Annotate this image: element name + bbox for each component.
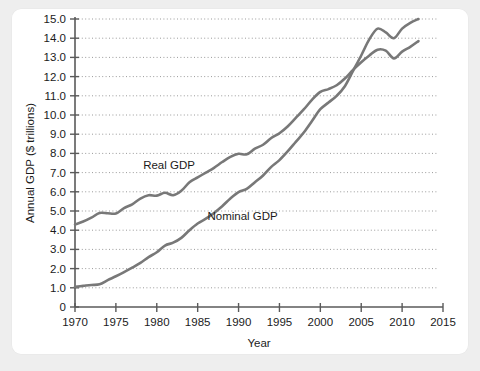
series-line-real-gdp: [75, 41, 418, 224]
y-tick-label: 4.0: [50, 224, 66, 236]
screenshot-root: 01.02.03.04.05.06.07.08.09.010.011.012.0…: [0, 0, 480, 371]
x-tick-label: 1990: [226, 316, 252, 328]
y-tick-label: 9.0: [50, 128, 66, 140]
y-tick-label: 14.0: [44, 32, 66, 44]
x-tick-label: 1970: [62, 316, 88, 328]
series-annotation: Nominal GDP: [207, 210, 278, 222]
x-axis: 1970197519801985199019952000200520102015: [62, 303, 456, 328]
y-tick-label: 6.0: [50, 186, 66, 198]
gdp-line-chart: 01.02.03.04.05.06.07.08.09.010.011.012.0…: [12, 9, 468, 354]
x-tick-label: 2000: [308, 316, 334, 328]
y-axis-tick-labels: 01.02.03.04.05.06.07.08.09.010.011.012.0…: [44, 13, 66, 313]
y-tick-label: 8.0: [50, 147, 66, 159]
x-tick-label: 1995: [267, 316, 293, 328]
y-tick-label: 15.0: [44, 13, 66, 25]
x-tick-label: 2005: [348, 316, 374, 328]
y-tick-label: 2.0: [50, 263, 66, 275]
y-tick-label: 5.0: [50, 205, 66, 217]
x-axis-title: Year: [247, 337, 270, 349]
series-annotations: Real GDPNominal GDP: [143, 159, 278, 222]
y-tick-label: 11.0: [44, 90, 66, 102]
y-tick-label: 1.0: [50, 282, 66, 294]
x-axis-tick-labels: 1970197519801985199019952000200520102015: [62, 316, 456, 328]
y-tick-label: 7.0: [50, 167, 66, 179]
x-tick-label: 2010: [389, 316, 415, 328]
x-tick-label: 1975: [103, 316, 129, 328]
grid-lines: [75, 19, 437, 288]
chart-card: 01.02.03.04.05.06.07.08.09.010.011.012.0…: [12, 9, 468, 354]
y-tick-label: 3.0: [50, 243, 66, 255]
y-axis-title: Annual GDP ($ trillions): [24, 103, 36, 223]
y-axis: 01.02.03.04.05.06.07.08.09.010.011.012.0…: [44, 13, 79, 313]
y-tick-label: 0: [60, 301, 66, 313]
x-tick-label: 2015: [430, 316, 456, 328]
y-tick-label: 13.0: [44, 51, 66, 63]
y-tick-label: 12.0: [44, 71, 66, 83]
y-tick-label: 10.0: [44, 109, 66, 121]
x-tick-label: 1980: [144, 316, 170, 328]
series-annotation: Real GDP: [143, 159, 195, 171]
x-tick-label: 1985: [185, 316, 211, 328]
